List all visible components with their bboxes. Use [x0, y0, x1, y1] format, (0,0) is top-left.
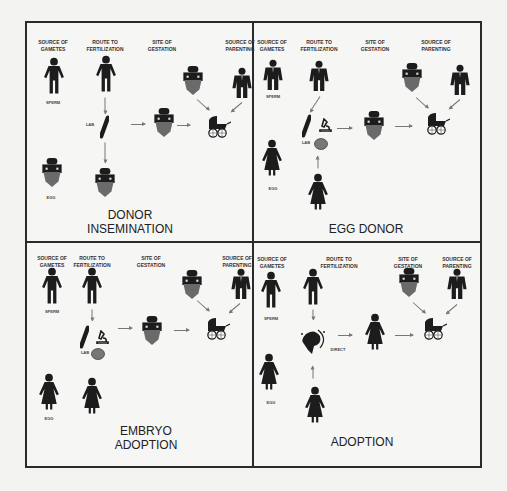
birth-father-icon	[302, 268, 324, 306]
quadrant-title: EGG DONOR	[329, 222, 404, 236]
arrow	[92, 310, 93, 321]
microscope-icon	[95, 330, 109, 344]
parent-mother-icon	[397, 268, 421, 298]
parent-mother-icon	[181, 66, 205, 96]
cupid-icon	[300, 328, 328, 356]
embryo-source-man-icon	[81, 267, 103, 305]
baby-carriage-icon	[424, 113, 450, 135]
father-figure-icon	[95, 55, 117, 93]
parent-mother-icon	[180, 270, 204, 300]
arrow	[338, 335, 352, 336]
egg-donor-woman-icon	[261, 138, 283, 178]
header-gametes: SOURCE OF GAMETES	[257, 39, 287, 53]
quadrant-title: EMBRYO ADOPTION	[115, 424, 178, 452]
sperm-label: SPERM	[46, 100, 60, 105]
baby-carriage-icon	[421, 318, 447, 340]
egg-source-woman-icon	[258, 352, 280, 392]
test-tube-icon	[100, 115, 109, 139]
mother-woman-icon	[307, 172, 329, 212]
test-tube-icon	[302, 114, 311, 138]
egg-donor-woman-icon	[38, 372, 60, 412]
arrow	[131, 124, 145, 125]
header-parenting: SOURCE OF PARENTING	[225, 39, 255, 53]
parent-mother-icon	[400, 63, 424, 93]
quadrant-title: ADOPTION	[331, 435, 394, 449]
lab-label: LAB	[86, 122, 94, 127]
gestation-woman-icon	[364, 312, 386, 352]
father-figure-icon	[308, 60, 330, 92]
lab-label: LAB	[302, 140, 310, 145]
header-route: ROUTE TO FERTILIZATION	[86, 39, 123, 53]
sperm-donor-icon	[41, 267, 63, 305]
arrow	[105, 98, 106, 114]
arrow	[174, 330, 189, 331]
sperm-label: SPERM	[45, 309, 59, 314]
parent-father-icon	[446, 268, 468, 300]
arrow	[177, 125, 190, 126]
arrow	[395, 335, 413, 336]
header-route: ROUTE TO FERTILIZATION	[300, 39, 337, 53]
header-parenting: SOURCE OF PARENTING	[222, 255, 252, 269]
header-gestation: SITE OF GESTATION	[361, 39, 389, 53]
sperm-donor-icon	[43, 57, 65, 95]
sperm-source-man-icon	[260, 271, 282, 309]
petri-dish-icon	[314, 138, 328, 150]
sperm-source-icon	[262, 59, 284, 91]
arrow	[105, 143, 106, 163]
header-gametes: SOURCE OF GAMETES	[38, 39, 68, 53]
header-route: ROUTE TO FERTILIZATION	[320, 256, 357, 270]
egg-label: EGG	[45, 416, 54, 421]
gestation-pregnant-icon	[140, 316, 164, 346]
test-tube-icon	[80, 325, 89, 349]
egg-source-pregnant-icon	[40, 158, 64, 188]
microscope-icon	[318, 118, 332, 132]
horizontal-divider	[25, 241, 482, 243]
gestation-pregnant-icon	[362, 111, 386, 141]
arrow	[337, 128, 352, 129]
lab-label: LAB	[81, 350, 89, 355]
arrow	[118, 328, 132, 329]
header-gestation: SITE OF GESTATION	[137, 255, 165, 269]
direct-label: DIRECT	[331, 347, 346, 352]
header-gestation: SITE OF GESTATION	[148, 39, 176, 53]
egg-label: EGG	[269, 186, 278, 191]
arrow	[318, 157, 319, 169]
embryo-source-woman-icon	[81, 376, 103, 416]
header-gametes: SOURCE OF GAMETES	[257, 256, 287, 270]
sperm-label: SPERM	[266, 94, 280, 99]
parent-father-icon	[231, 67, 253, 99]
parent-father-icon	[230, 268, 252, 300]
arrow	[313, 367, 314, 379]
quadrant-title: DONOR INSEMINATION	[87, 208, 173, 236]
gestation-pregnant-icon	[152, 108, 176, 138]
birth-mother-icon	[304, 385, 326, 425]
petri-dish-icon	[91, 348, 105, 360]
parent-father-icon	[449, 64, 471, 96]
egg-label: EGG	[267, 400, 276, 405]
egg-label: EGG	[47, 195, 56, 200]
mother-pregnant-icon	[93, 168, 117, 198]
baby-carriage-icon	[204, 318, 230, 340]
arrow	[395, 126, 412, 127]
header-parenting: SOURCE OF PARENTING	[421, 39, 451, 53]
sperm-label: SPERM	[264, 316, 278, 321]
baby-carriage-icon	[205, 116, 231, 138]
arrow	[313, 310, 314, 320]
